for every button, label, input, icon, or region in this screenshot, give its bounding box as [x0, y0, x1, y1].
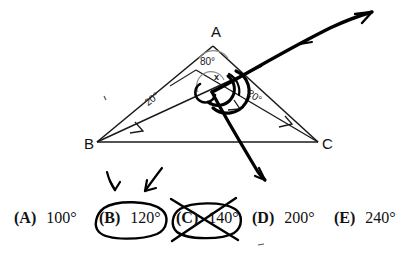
- angle-label-apex: 80°: [200, 57, 215, 67]
- pen-arrows-to-choice-b: [107, 168, 162, 191]
- answer-choice-c-tag: (C): [176, 209, 198, 227]
- tick-angle-b: [130, 122, 143, 133]
- answer-choice-d[interactable]: (D) 200°: [252, 206, 315, 230]
- answer-choice-b-value: 120°: [130, 209, 160, 227]
- answer-choice-e-value: 240°: [365, 209, 395, 227]
- answer-choice-a-value: 100°: [46, 209, 76, 227]
- geometry-problem-image: A B C 80° 20° 20° x (A) 100° (B) 120° (C…: [0, 0, 419, 259]
- vertex-label-A: A: [211, 24, 221, 39]
- answer-choice-d-tag: (D): [252, 209, 274, 227]
- segment-ac: [213, 46, 318, 142]
- stray-mark-bottom: [258, 244, 264, 245]
- answer-choice-e[interactable]: (E) 240°: [334, 206, 396, 230]
- answer-choice-b-tag: (B): [99, 209, 120, 227]
- answer-choice-a[interactable]: (A) 100°: [14, 206, 77, 230]
- answer-choice-c[interactable]: (C) 140°: [176, 206, 239, 230]
- answer-choices-row: (A) 100° (B) 120° (C) 140° (D) 200° (E) …: [0, 206, 419, 236]
- answer-choice-d-value: 200°: [284, 209, 314, 227]
- interior-rays: [97, 66, 318, 142]
- angle-label-x: x: [214, 73, 219, 82]
- answer-choice-b[interactable]: (B) 120°: [99, 206, 161, 230]
- answer-choice-a-tag: (A): [14, 209, 36, 227]
- pen-overlay-ray: [212, 12, 372, 180]
- stray-mark-left: [104, 96, 106, 100]
- vertex-label-C: C: [322, 136, 333, 151]
- answer-choice-e-tag: (E): [334, 209, 355, 227]
- pen-arrow-left-head: [110, 181, 120, 190]
- answer-choice-c-value: 140°: [208, 209, 238, 227]
- vertex-label-B: B: [84, 136, 94, 151]
